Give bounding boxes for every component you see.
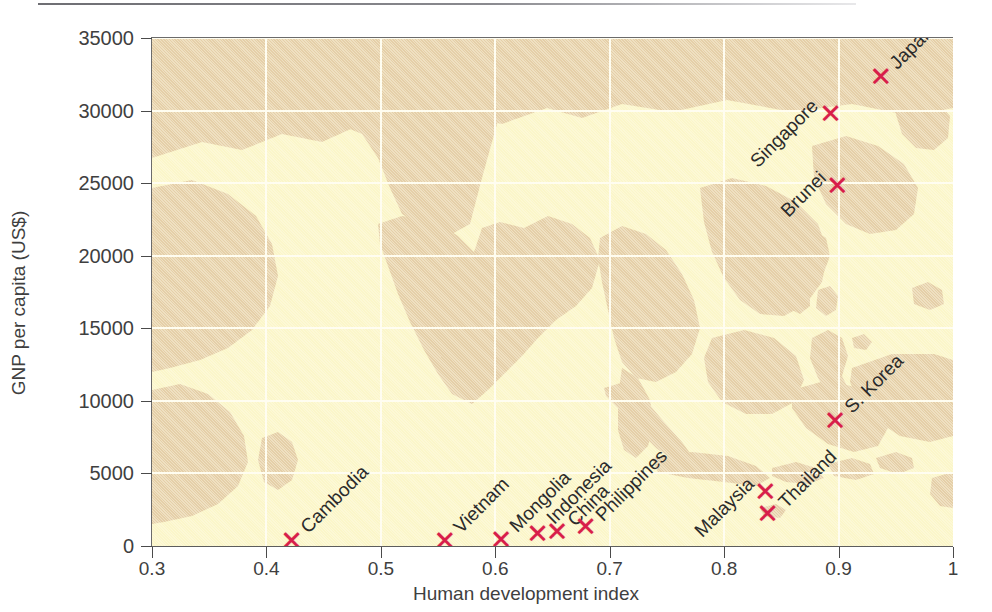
y-tick-mark [141, 546, 152, 547]
data-point-marker[interactable]: ✕ [546, 518, 569, 545]
gridline-horizontal [152, 255, 953, 257]
x-axis-title: Human development index [0, 583, 992, 605]
y-tick-mark [141, 401, 152, 402]
gridline-vertical [380, 38, 382, 546]
x-tick-label: 0.8 [694, 558, 754, 580]
x-tick-mark [610, 547, 611, 558]
x-tick-label: 0.6 [465, 558, 525, 580]
x-tick-label: 1 [923, 558, 983, 580]
y-tick-mark [141, 38, 152, 39]
y-tick-mark [141, 328, 152, 329]
x-tick-mark [953, 547, 954, 558]
x-tick-mark [724, 547, 725, 558]
data-point-marker[interactable]: ✕ [574, 512, 597, 539]
gridline-horizontal [152, 400, 953, 402]
gridline-vertical [723, 38, 725, 546]
gridline-vertical [494, 38, 496, 546]
x-tick-mark [381, 547, 382, 558]
x-tick-mark [266, 547, 267, 558]
x-tick-label: 0.9 [809, 558, 869, 580]
y-tick-mark [141, 111, 152, 112]
y-tick-mark [141, 473, 152, 474]
x-tick-label: 0.7 [580, 558, 640, 580]
data-point-marker[interactable]: ✕ [756, 500, 779, 527]
y-tick-label: 30000 [48, 99, 134, 122]
x-axis-title-text: Human development index [413, 583, 639, 604]
gridline-horizontal [152, 38, 953, 39]
y-axis-title: GNP per capita (US$) [8, 138, 30, 468]
y-tick-label: 15000 [48, 317, 134, 340]
plot-area: ✕Cambodia✕Vietnam✕Mongolia✕Indonesia✕Chi… [152, 38, 953, 546]
y-tick-label: 20000 [48, 244, 134, 267]
x-axis-line [151, 546, 953, 547]
x-tick-label: 0.4 [236, 558, 296, 580]
data-point-marker[interactable]: ✕ [819, 100, 842, 127]
x-tick-label: 0.3 [122, 558, 182, 580]
x-tick-label: 0.5 [351, 558, 411, 580]
y-tick-mark [141, 183, 152, 184]
y-tick-mark [141, 256, 152, 257]
data-point-marker[interactable]: ✕ [826, 171, 849, 198]
x-tick-mark [152, 547, 153, 558]
gridline-horizontal [152, 327, 953, 329]
x-tick-mark [839, 547, 840, 558]
data-point-marker[interactable]: ✕ [434, 527, 457, 546]
x-tick-mark [495, 547, 496, 558]
gridline-vertical [265, 38, 267, 546]
y-tick-label: 5000 [48, 462, 134, 485]
data-point-marker[interactable]: ✕ [280, 527, 303, 546]
scatter-chart-figure: ✕Cambodia✕Vietnam✕Mongolia✕Indonesia✕Chi… [0, 0, 992, 612]
data-point-marker[interactable]: ✕ [490, 525, 513, 546]
y-tick-label: 10000 [48, 389, 134, 412]
y-tick-label: 35000 [48, 27, 134, 50]
y-tick-label: 0 [48, 535, 134, 558]
data-point-marker[interactable]: ✕ [824, 406, 847, 433]
y-tick-label: 25000 [48, 172, 134, 195]
data-point-marker[interactable]: ✕ [870, 62, 893, 89]
